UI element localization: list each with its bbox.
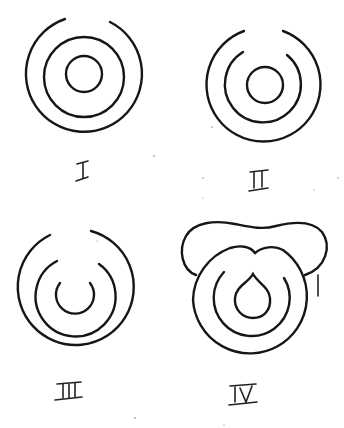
panel-ii-label: II [0,0,268,191]
panel-i-middle-ring [44,37,124,117]
panel-iii-outer-ring [18,231,134,345]
panel-ii-middle-ring [225,52,301,122]
diagram-canvas: I II III [0,0,344,428]
panel-i-inner-ring [66,56,102,92]
panel-iv-middle-ring [214,272,290,336]
panel-ii-outer-ring [207,31,321,142]
panel-iii: III [0,0,134,400]
panel-i: I [0,0,142,181]
panel-iv: IV [0,0,327,405]
panel-ii-inner-ring [247,67,283,103]
panel-iii-label: III [0,0,82,400]
panel-iii-inner-u [56,283,94,314]
panel-iv-inner-teardrop [235,274,270,318]
panel-iii-middle-ring [36,261,116,336]
